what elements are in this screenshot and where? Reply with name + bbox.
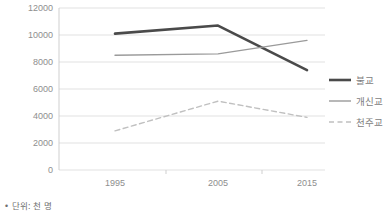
y-tick-label: 0 <box>48 165 53 175</box>
chart-legend: 불교개신교천주교 <box>329 75 383 128</box>
x-axis-ticks <box>166 170 262 174</box>
data-series-lines <box>115 26 307 131</box>
chart-footnote: • 단위: 천 명 <box>4 199 52 211</box>
x-tick-label: 2015 <box>297 178 317 188</box>
religion-population-line-chart: 020004000600080001000012000 199520052015… <box>0 0 386 214</box>
x-tick-label: 1995 <box>105 178 125 188</box>
legend-label-천주교: 천주교 <box>356 117 383 128</box>
chart-canvas: 020004000600080001000012000 199520052015… <box>0 0 386 214</box>
series-line-개신교 <box>115 40 307 55</box>
series-line-불교 <box>115 26 307 71</box>
y-tick-label: 6000 <box>33 84 53 94</box>
y-tick-label: 8000 <box>33 57 53 67</box>
y-tick-label: 10000 <box>28 30 53 40</box>
legend-label-불교: 불교 <box>356 75 374 86</box>
y-tick-label: 2000 <box>33 138 53 148</box>
y-tick-label: 4000 <box>33 111 53 121</box>
y-tick-label: 12000 <box>28 3 53 13</box>
y-axis-tick-labels: 020004000600080001000012000 <box>28 3 53 175</box>
legend-label-개신교: 개신교 <box>356 96 383 107</box>
gridlines <box>59 8 325 170</box>
x-axis-tick-labels: 199520052015 <box>105 178 317 188</box>
x-tick-label: 2005 <box>208 178 228 188</box>
